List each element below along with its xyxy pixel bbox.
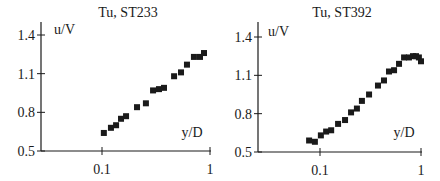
- data-point-square: [143, 100, 149, 106]
- chart-panel-st392: 0.50.81.11.40.11Tu, ST392u/Vy/D: [235, 5, 425, 178]
- x-axis-label: y/D: [182, 125, 203, 140]
- data-point-square: [348, 109, 354, 115]
- y-tick-label: 1.4: [235, 30, 253, 45]
- data-point-square: [178, 69, 184, 75]
- x-tick-label: 0.1: [311, 163, 329, 178]
- data-point-square: [342, 117, 348, 123]
- x-axis-label: y/D: [394, 125, 415, 140]
- data-point-square: [171, 73, 177, 79]
- data-point-square: [328, 127, 334, 133]
- chart-canvas: 0.50.81.11.40.11Tu, ST233u/Vy/D 0.50.81.…: [0, 0, 440, 181]
- y-axis-label: u/V: [54, 22, 75, 37]
- data-point-square: [150, 87, 156, 93]
- data-point-square: [354, 106, 360, 112]
- x-tick-label: 0.1: [93, 162, 111, 177]
- data-point-square: [101, 130, 107, 136]
- y-tick-label: 0.8: [235, 107, 253, 122]
- data-point-square: [201, 50, 207, 56]
- data-point-square: [366, 92, 372, 98]
- data-point-square: [335, 121, 341, 127]
- chart-title: Tu, ST233: [98, 5, 157, 20]
- data-point-square: [306, 138, 312, 144]
- data-point-square: [161, 85, 167, 91]
- y-tick-label: 0.8: [18, 105, 36, 120]
- data-point-square: [318, 132, 324, 138]
- chart-panel-st233: 0.50.81.11.40.11Tu, ST233u/Vy/D: [18, 5, 214, 177]
- data-point-square: [391, 67, 397, 73]
- y-axis-label: u/V: [268, 24, 289, 39]
- data-point-square: [375, 83, 381, 89]
- x-tick-label: 1: [418, 163, 425, 178]
- data-point-square: [359, 98, 365, 104]
- data-point-square: [184, 62, 190, 68]
- figure-two-panels: 0.50.81.11.40.11Tu, ST233u/Vy/D 0.50.81.…: [0, 0, 440, 181]
- y-tick-label: 0.5: [235, 145, 253, 160]
- y-tick-label: 1.4: [18, 28, 36, 43]
- data-point-square: [134, 104, 140, 110]
- y-tick-label: 1.1: [235, 68, 253, 83]
- data-point-square: [312, 139, 318, 145]
- chart-title: Tu, ST392: [312, 5, 371, 20]
- data-point-square: [191, 54, 197, 60]
- y-tick-label: 0.5: [18, 144, 36, 159]
- x-tick-label: 1: [207, 162, 214, 177]
- data-point-square: [108, 125, 114, 131]
- data-point-square: [123, 113, 129, 119]
- data-point-square: [381, 77, 387, 83]
- data-point-square: [396, 61, 402, 67]
- y-tick-label: 1.1: [18, 67, 36, 82]
- data-point-square: [418, 58, 424, 64]
- data-point-square: [113, 122, 119, 128]
